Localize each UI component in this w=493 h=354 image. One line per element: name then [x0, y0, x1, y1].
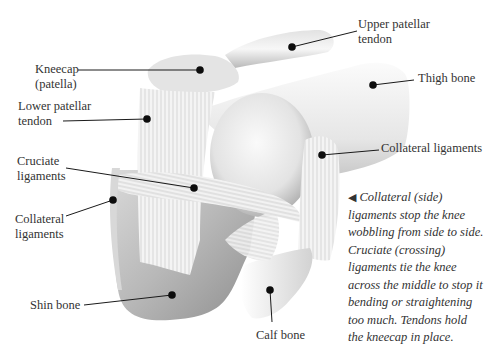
label-thigh-bone: Thigh bone	[418, 71, 475, 86]
label-collateral-ligaments-left: Collateral ligaments	[15, 212, 64, 242]
label-line: tendon	[18, 114, 91, 129]
label-line: Thigh bone	[418, 71, 475, 86]
knee-anatomy-diagram: Upper patellar tendon Kneecap (patella) …	[0, 0, 493, 354]
caption: ◀Collateral (side) ligaments stop the kn…	[348, 189, 493, 347]
label-lower-patellar-tendon: Lower patellar tendon	[18, 99, 91, 129]
dot-collateral-ligaments-right	[318, 151, 326, 159]
label-line: Collateral ligaments	[381, 141, 482, 156]
dot-collateral-ligaments-left	[109, 196, 117, 204]
caption-text: Collateral (side)	[359, 190, 442, 204]
left-arrow-icon: ◀	[348, 191, 356, 203]
label-line: tendon	[358, 32, 430, 47]
label-line: Calf bone	[256, 328, 305, 343]
dot-kneecap	[196, 66, 204, 74]
calf-bone-shape	[241, 248, 312, 318]
caption-line: the kneecap in place.	[348, 329, 493, 347]
label-line: (patella)	[35, 77, 79, 92]
dot-cruciate-ligaments	[190, 184, 198, 192]
caption-line: bending or straightening	[348, 294, 493, 312]
label-collateral-ligaments-right: Collateral ligaments	[381, 141, 482, 156]
kneecap-shape	[148, 54, 239, 93]
label-shin-bone: Shin bone	[30, 298, 80, 313]
caption-line: wobbling from side to side.	[348, 224, 493, 242]
label-line: Shin bone	[30, 298, 80, 313]
label-line: Kneecap	[35, 62, 79, 77]
caption-line: ◀Collateral (side)	[348, 189, 493, 207]
caption-line: across the middle to stop it	[348, 277, 493, 295]
label-kneecap: Kneecap (patella)	[35, 62, 79, 92]
dot-upper-patellar-tendon	[288, 43, 296, 51]
caption-line: Cruciate (crossing)	[348, 242, 493, 260]
dot-shin-bone	[168, 291, 176, 299]
upper-patellar-tendon-shape	[225, 30, 334, 68]
dot-lower-patellar-tendon	[143, 115, 151, 123]
label-line: Collateral	[15, 212, 64, 227]
caption-line: too much. Tendons hold	[348, 312, 493, 330]
label-line: ligaments	[15, 227, 64, 242]
label-line: Cruciate	[17, 154, 66, 169]
label-line: Lower patellar	[18, 99, 91, 114]
label-upper-patellar-tendon: Upper patellar tendon	[358, 17, 430, 47]
caption-line: ligaments tie the knee	[348, 259, 493, 277]
dot-thigh-bone	[369, 81, 377, 89]
label-line: Upper patellar	[358, 17, 430, 32]
label-line: ligaments	[17, 169, 66, 184]
dot-calf-bone	[266, 286, 274, 294]
caption-line: ligaments stop the knee	[348, 207, 493, 225]
label-calf-bone: Calf bone	[256, 328, 305, 343]
label-cruciate-ligaments: Cruciate ligaments	[17, 154, 66, 184]
